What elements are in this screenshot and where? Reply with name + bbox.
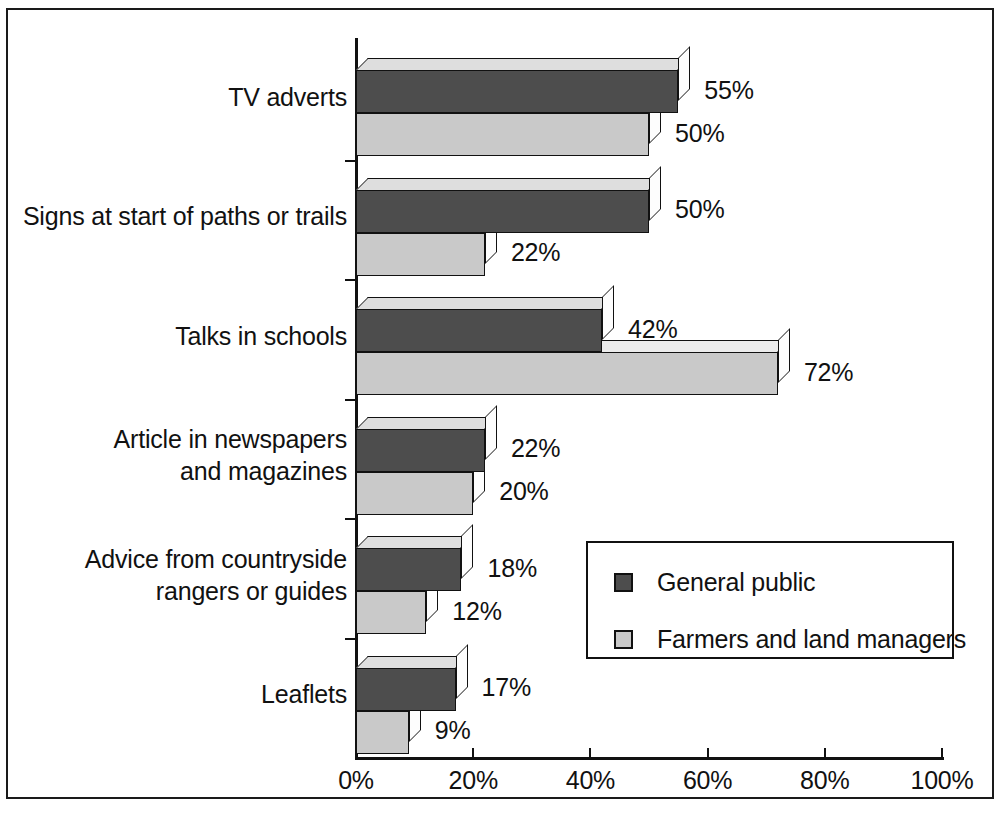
category-label: Signs at start of paths or trails: [23, 200, 347, 232]
x-axis-tick: [472, 748, 474, 757]
category-label: TV adverts: [228, 81, 347, 113]
y-axis-tick: [345, 279, 356, 281]
x-axis-tick: [589, 748, 591, 757]
bar-front-face: [356, 70, 678, 113]
bar-value-label: 72%: [804, 358, 853, 387]
bar-front-face: [356, 548, 461, 591]
legend-entry[interactable]: Farmers and land managers: [614, 625, 966, 654]
bar-side-face: [461, 524, 473, 579]
legend-entry[interactable]: General public: [614, 568, 815, 597]
bar-front-face: [356, 113, 649, 156]
legend-label: Farmers and land managers: [657, 625, 966, 654]
category-label: Talks in schools: [175, 320, 347, 352]
y-axis-tick: [345, 518, 356, 520]
bar-value-label: 22%: [511, 434, 560, 463]
bar-value-label: 22%: [511, 238, 560, 267]
legend-swatch-icon: [614, 630, 633, 649]
bar: [356, 178, 649, 221]
x-axis-tick-label: 40%: [566, 766, 615, 795]
bar-front-face: [356, 711, 409, 754]
bar-value-label: 55%: [704, 76, 753, 105]
bar: [356, 536, 461, 579]
bar-value-label: 50%: [675, 195, 724, 224]
x-axis-tick: [824, 748, 826, 757]
legend: General publicFarmers and land managers: [586, 541, 954, 659]
y-axis-tick: [345, 160, 356, 162]
bar-front-face: [356, 668, 456, 711]
bar: [356, 656, 456, 699]
legend-swatch-icon: [614, 573, 633, 592]
bar-front-face: [356, 309, 602, 352]
x-axis-tick-label: 80%: [800, 766, 849, 795]
bar-front-face: [356, 429, 485, 472]
category-label: Leaflets: [261, 678, 347, 710]
y-axis-tick: [345, 399, 356, 401]
bar-value-label: 17%: [482, 673, 531, 702]
bar: [356, 297, 602, 340]
category-label: Advice from countryside rangers or guide…: [85, 543, 347, 607]
bar-top-face: [356, 178, 661, 190]
bar-top-face: [356, 536, 473, 548]
y-axis-tick: [345, 638, 356, 640]
figure: 0%20%40%60%80%100% TV advertsSigns at st…: [0, 0, 1003, 815]
bar-value-label: 9%: [435, 716, 471, 745]
x-axis-tick-label: 100%: [910, 766, 973, 795]
bar-value-label: 20%: [499, 477, 548, 506]
bar-top-face: [356, 58, 690, 70]
x-axis-tick-label: 0%: [338, 766, 374, 795]
bar: [356, 58, 678, 101]
x-axis-tick-label: 60%: [683, 766, 732, 795]
bar-side-face: [649, 166, 661, 221]
legend-label: General public: [657, 568, 815, 597]
bar-front-face: [356, 352, 778, 395]
bar-value-label: 18%: [487, 554, 536, 583]
bar-top-face: [356, 656, 468, 668]
x-axis-tick-label: 20%: [448, 766, 497, 795]
x-axis-line: [355, 757, 944, 760]
bar-top-face: [356, 417, 497, 429]
bar-top-face: [356, 297, 614, 309]
bar-value-label: 12%: [452, 597, 501, 626]
category-label: Article in newspapers and magazines: [114, 423, 347, 487]
plot-area: 0%20%40%60%80%100% TV advertsSigns at st…: [0, 0, 1003, 815]
x-axis-tick: [707, 748, 709, 757]
bar-side-face: [602, 285, 614, 340]
bar-front-face: [356, 190, 649, 233]
bar-side-face: [778, 328, 790, 383]
bar-side-face: [485, 405, 497, 460]
x-axis-tick: [941, 748, 943, 757]
bar-front-face: [356, 591, 426, 634]
bar-front-face: [356, 233, 485, 276]
bar-side-face: [456, 644, 468, 699]
bar-side-face: [678, 46, 690, 101]
bar-value-label: 50%: [675, 119, 724, 148]
bar: [356, 417, 485, 460]
bar-front-face: [356, 472, 473, 515]
